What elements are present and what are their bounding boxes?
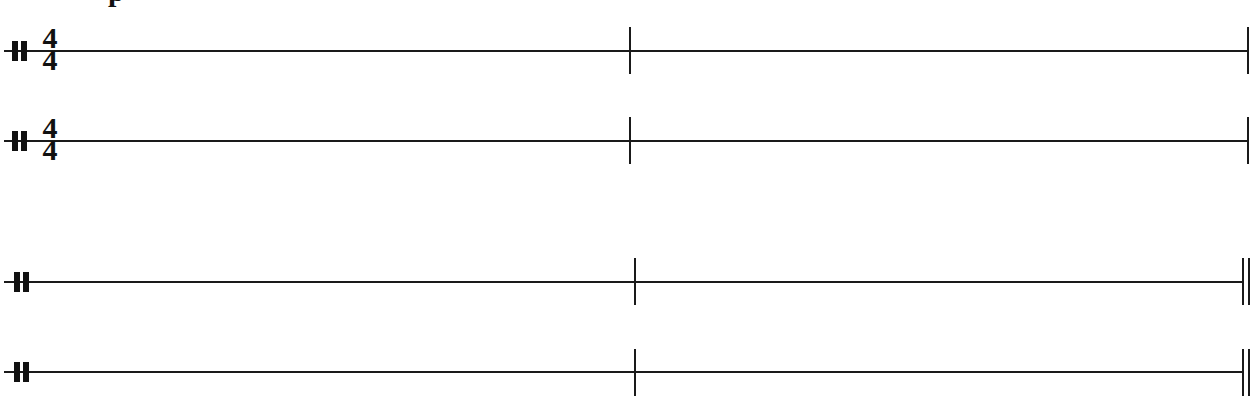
staff-line [4,281,1244,283]
staff-line [4,371,1244,373]
percussion-clef-icon [12,131,30,151]
barline [634,349,636,396]
double-barline-right [1248,349,1250,396]
staff-1: 4 4 [0,21,1257,81]
percussion-clef-icon [14,272,32,292]
time-signature-denominator: 4 [38,49,62,71]
time-signature-denominator: 4 [38,139,62,161]
barline [629,27,631,74]
percussion-clef-icon [14,362,32,382]
staff-4 [0,342,1257,402]
final-barline [1247,27,1249,74]
double-barline-left [1242,258,1244,305]
staff-3 [0,252,1257,312]
staff-line [4,140,1248,142]
percussion-clef-icon [12,41,30,61]
time-signature: 4 4 [38,27,62,73]
staff-2: 4 4 [0,111,1257,171]
title-fragment: p [108,0,125,6]
score-page: p 4 4 4 4 [0,0,1257,402]
barline [629,117,631,164]
final-barline [1247,117,1249,164]
staff-line [4,50,1248,52]
double-barline-right [1248,258,1250,305]
time-signature: 4 4 [38,117,62,163]
barline [634,258,636,305]
double-barline-left [1242,349,1244,396]
